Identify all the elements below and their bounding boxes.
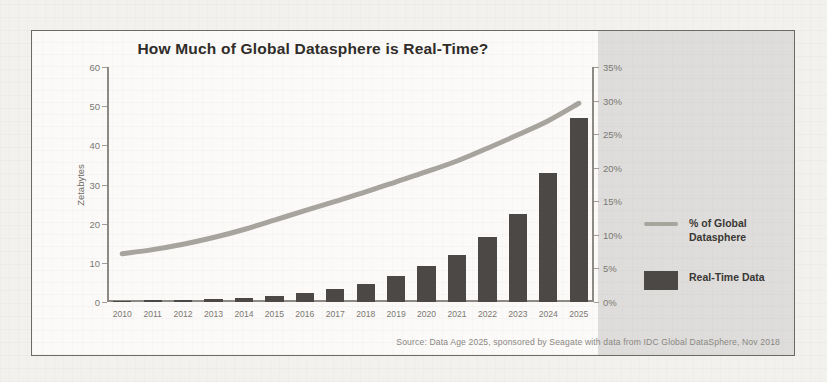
x-tick-label-2015: 2015 bbox=[265, 309, 284, 319]
y2-tick-mark-35 bbox=[594, 67, 599, 68]
x-tick-label-2020: 2020 bbox=[417, 309, 436, 319]
y2-tick-label-30: 30% bbox=[603, 95, 622, 106]
y-tick-label-60: 60 bbox=[89, 62, 100, 73]
bar-2025 bbox=[570, 118, 588, 302]
y2-tick-mark-25 bbox=[594, 134, 599, 135]
x-tick-label-2023: 2023 bbox=[508, 309, 527, 319]
bar-group-2018: 2018 bbox=[351, 67, 381, 302]
x-tick-label-2024: 2024 bbox=[539, 309, 558, 319]
x-tick-label-2016: 2016 bbox=[295, 309, 314, 319]
y2-tick-mark-30 bbox=[594, 101, 599, 102]
y-axis-title: Zetabytes bbox=[75, 164, 86, 206]
bar-2017 bbox=[326, 289, 344, 302]
x-tick-label-2017: 2017 bbox=[326, 309, 345, 319]
legend-line-swatch-icon bbox=[644, 222, 678, 226]
chart-title: How Much of Global Datasphere is Real-Ti… bbox=[32, 40, 794, 58]
bar-2014 bbox=[235, 298, 253, 302]
bar-group-2014: 2014 bbox=[229, 67, 259, 302]
bar-2016 bbox=[296, 293, 314, 302]
bar-2020 bbox=[417, 266, 435, 302]
y-tick-label-40: 40 bbox=[89, 140, 100, 151]
y2-tick-label-25: 25% bbox=[603, 129, 622, 140]
x-tick-label-2013: 2013 bbox=[204, 309, 223, 319]
x-tick-label-2011: 2011 bbox=[143, 309, 161, 319]
y-tick-label-30: 30 bbox=[89, 179, 100, 190]
y2-tick-label-15: 15% bbox=[603, 196, 622, 207]
y2-tick-label-20: 20% bbox=[603, 162, 622, 173]
x-tick-label-2012: 2012 bbox=[174, 309, 193, 319]
legend-item-percent-of-global-datasphere: % of Global Datasphere bbox=[644, 217, 794, 245]
chart-legend: % of Global Datasphere Real-Time Data bbox=[644, 217, 794, 316]
y2-tick-mark-20 bbox=[594, 168, 599, 169]
y-tick-mark-0 bbox=[102, 302, 107, 303]
legend-item-real-time-data: Real-Time Data bbox=[644, 271, 794, 290]
bar-group-2013: 2013 bbox=[198, 67, 228, 302]
bar-2012 bbox=[174, 300, 192, 302]
plot-area: Zetabytes 0102030405060 0%5%10%15%20%25%… bbox=[107, 67, 594, 302]
x-tick-label-2022: 2022 bbox=[478, 309, 497, 319]
chart-card: How Much of Global Datasphere is Real-Ti… bbox=[31, 30, 795, 356]
y2-tick-mark-15 bbox=[594, 201, 599, 202]
legend-square-swatch-icon bbox=[644, 271, 678, 290]
y-tick-label-20: 20 bbox=[89, 218, 100, 229]
legend-label-real-time-data: Real-Time Data bbox=[689, 271, 765, 285]
bar-group-2024: 2024 bbox=[533, 67, 563, 302]
y-tick-label-0: 0 bbox=[95, 297, 100, 308]
bar-group-2020: 2020 bbox=[411, 67, 441, 302]
bar-2018 bbox=[357, 284, 375, 302]
bar-2011 bbox=[144, 300, 162, 302]
bar-group-2021: 2021 bbox=[442, 67, 472, 302]
x-tick-label-2019: 2019 bbox=[387, 309, 406, 319]
bar-group-2019: 2019 bbox=[381, 67, 411, 302]
y2-tick-label-35: 35% bbox=[603, 62, 622, 73]
bar-2015 bbox=[265, 296, 283, 302]
x-tick-label-2025: 2025 bbox=[569, 309, 588, 319]
bar-group-2016: 2016 bbox=[290, 67, 320, 302]
bar-group-2011: 2011 bbox=[137, 67, 167, 302]
bar-2022 bbox=[478, 237, 496, 302]
x-tick-label-2014: 2014 bbox=[234, 309, 253, 319]
bar-group-2015: 2015 bbox=[259, 67, 289, 302]
bar-group-2022: 2022 bbox=[472, 67, 502, 302]
legend-label-percent-of-global-datasphere: % of Global Datasphere bbox=[689, 217, 794, 245]
y2-tick-label-10: 10% bbox=[603, 229, 622, 240]
bar-group-2010: 2010 bbox=[107, 67, 137, 302]
bar-2024 bbox=[539, 173, 557, 302]
y2-tick-mark-0 bbox=[594, 302, 599, 303]
y2-tick-label-0: 0% bbox=[603, 297, 617, 308]
x-tick-label-2021: 2021 bbox=[447, 309, 466, 319]
source-note: Source: Data Age 2025, sponsored by Seag… bbox=[32, 337, 780, 347]
bar-group-2025: 2025 bbox=[564, 67, 594, 302]
bar-2010 bbox=[113, 301, 131, 302]
bar-group-2012: 2012 bbox=[168, 67, 198, 302]
x-tick-label-2018: 2018 bbox=[356, 309, 375, 319]
bar-2019 bbox=[387, 276, 405, 302]
y2-tick-mark-5 bbox=[594, 268, 599, 269]
bar-2021 bbox=[448, 255, 466, 302]
y2-tick-mark-10 bbox=[594, 235, 599, 236]
bar-2023 bbox=[509, 214, 527, 302]
bar-series: 2010201120122013201420152016201720182019… bbox=[107, 67, 594, 302]
x-tick-label-2010: 2010 bbox=[113, 309, 132, 319]
y-tick-label-50: 50 bbox=[89, 101, 100, 112]
bar-group-2023: 2023 bbox=[503, 67, 533, 302]
y-tick-label-10: 10 bbox=[89, 257, 100, 268]
bar-group-2017: 2017 bbox=[320, 67, 350, 302]
y2-tick-label-5: 5% bbox=[603, 263, 617, 274]
bar-2013 bbox=[204, 299, 222, 302]
